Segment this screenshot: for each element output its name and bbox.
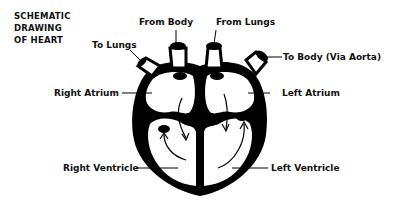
label-to-body-via-aorta: To Body (Via Aorta) — [283, 52, 381, 63]
label-from-lungs: From Lungs — [216, 17, 275, 28]
label-left-atrium: Left Atrium — [282, 88, 340, 99]
label-right-atrium: Right Atrium — [54, 88, 119, 99]
vessel-from-lungs — [206, 42, 222, 68]
label-left-ventricle: Left Ventricle — [271, 163, 340, 174]
label-to-lungs: To Lungs — [92, 40, 137, 51]
heart-diagram — [0, 0, 398, 207]
label-right-ventricle: Right Ventricle — [63, 163, 139, 174]
label-from-body: From Body — [139, 17, 193, 28]
vessel-from-body — [170, 42, 186, 68]
